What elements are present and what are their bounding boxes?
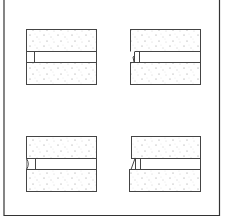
joint-gap (136, 159, 201, 170)
joint-gap (27, 159, 97, 170)
panel-bottom-left (27, 137, 97, 192)
joint-gap (135, 52, 201, 63)
panel-bottom-right (130, 137, 201, 192)
lower-block (131, 63, 201, 85)
upper-block (27, 137, 97, 159)
diagram-canvas (0, 0, 231, 222)
joint-edge-slanted (131, 159, 135, 170)
panel-top-left (27, 30, 97, 85)
upper-block (132, 137, 201, 159)
joint-gap (27, 52, 97, 63)
lower-block (27, 170, 97, 192)
upper-block (27, 30, 97, 52)
diagram-figure (0, 0, 231, 222)
lower-block (27, 63, 97, 85)
upper-block (131, 30, 201, 52)
lower-block (130, 170, 201, 192)
panel-top-right (131, 30, 201, 85)
